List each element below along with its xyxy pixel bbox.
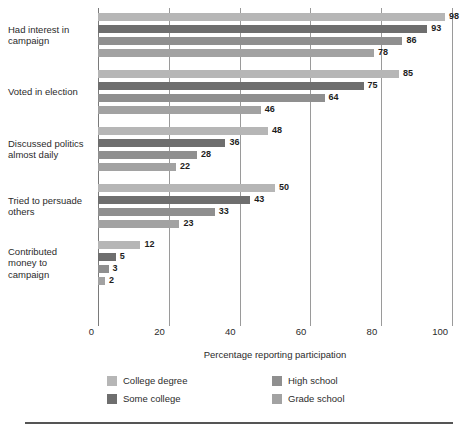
legend-swatch [272,394,282,404]
bar [98,277,105,285]
bar-value-label: 85 [403,68,413,79]
category-label-line: Voted in election [8,86,94,98]
bar-row: 78 [98,49,452,57]
legend-item[interactable]: Some college [107,393,181,405]
category-label-line: almost daily [8,149,94,161]
x-tick-label-100: 100 [412,326,448,338]
category-label-line: campaign [8,35,94,47]
participation-bar-chart: 9893867885756446483628225043332312532 02… [0,0,475,432]
category-label-line: money to [8,257,94,269]
bar-group: 50433323 [98,184,452,228]
bar-value-label: 78 [378,47,388,58]
category-label: Had interest incampaign [8,24,94,47]
legend-swatch [272,376,282,386]
x-tick-label-20: 20 [129,326,165,338]
legend-label: College degree [123,375,187,387]
bar-value-label: 36 [229,137,239,148]
x-tick-label-80: 80 [341,326,377,338]
bar-value-label: 5 [120,251,125,262]
legend-item[interactable]: College degree [107,375,187,387]
bar [98,151,197,159]
bar [98,208,215,216]
bar [98,265,109,273]
bar-value-label: 93 [431,23,441,34]
legend-swatch [107,394,117,404]
bar-row: 64 [98,94,452,102]
legend-item[interactable]: High school [272,375,338,387]
category-label-line: Tried to persuade [8,195,94,207]
bar-value-label: 22 [180,161,190,172]
bar-value-label: 43 [254,194,264,205]
bar-value-label: 86 [406,35,416,46]
bar [98,82,364,90]
bar [98,106,261,114]
bar-row: 36 [98,139,452,147]
bar-row: 93 [98,25,452,33]
bar-row: 98 [98,13,452,21]
bar-row: 22 [98,163,452,171]
bar-group: 98938678 [98,13,452,57]
legend-label: Grade school [288,393,345,405]
bar-value-label: 98 [449,11,459,22]
bar [98,220,179,228]
bar [98,253,116,261]
bar [98,196,250,204]
chart-legend: College degreeSome collegeHigh schoolGra… [107,375,407,409]
bar-row: 5 [98,253,452,261]
bar [98,94,325,102]
category-label: Voted in election [8,86,94,98]
bar [98,49,374,57]
bar [98,25,427,33]
bar-value-label: 64 [329,92,339,103]
category-label-line: others [8,206,94,218]
bar-row: 75 [98,82,452,90]
category-label-line: campaign [8,269,94,281]
x-tick-label-40: 40 [200,326,236,338]
gridline-100 [452,8,453,326]
bar-row: 3 [98,265,452,273]
bar-row: 12 [98,241,452,249]
bar-group: 12532 [98,241,452,285]
bar [98,37,402,45]
bar-value-label: 75 [368,80,378,91]
bar [98,13,445,21]
bar-group: 48362822 [98,127,452,171]
bar-value-label: 12 [144,239,154,250]
plot-area: 9893867885756446483628225043332312532 [98,8,452,326]
bar-value-label: 50 [279,182,289,193]
category-label: Tried to persuadeothers [8,195,94,218]
bar-row: 48 [98,127,452,135]
x-tick-label-60: 60 [270,326,306,338]
bar [98,70,399,78]
bar-value-label: 33 [219,206,229,217]
bar-row: 50 [98,184,452,192]
bottom-divider-rule [25,422,453,424]
bar-value-label: 28 [201,149,211,160]
bar [98,127,268,135]
bar [98,139,225,147]
bar-row: 43 [98,196,452,204]
category-label-line: Had interest in [8,24,94,36]
category-label-line: Discussed politics [8,138,94,150]
bar-row: 28 [98,151,452,159]
bar [98,241,140,249]
bar-row: 85 [98,70,452,78]
bar-value-label: 23 [183,218,193,229]
bar-row: 23 [98,220,452,228]
category-label-line: Contributed [8,246,94,258]
bar-row: 2 [98,277,452,285]
bar [98,163,176,171]
legend-label: Some college [123,393,181,405]
bar-value-label: 48 [272,125,282,136]
legend-label: High school [288,375,338,387]
x-tick-label-0: 0 [58,326,94,338]
x-axis-title: Percentage reporting participation [98,349,452,360]
legend-item[interactable]: Grade school [272,393,345,405]
category-label: Contributedmoney tocampaign [8,246,94,281]
bar-row: 86 [98,37,452,45]
bar-group: 85756446 [98,70,452,114]
x-axis-tick-labels: 020406080100 [98,326,458,340]
category-label: Discussed politicsalmost daily [8,138,94,161]
bar [98,184,275,192]
bar-value-label: 46 [265,104,275,115]
